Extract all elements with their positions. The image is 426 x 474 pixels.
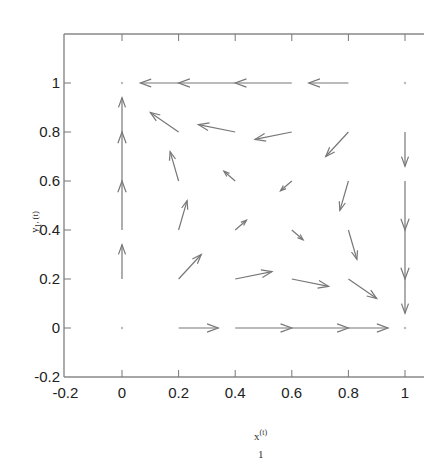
vector-arrow: [198, 123, 235, 132]
fixed-point: [121, 82, 123, 84]
ticks: -0.200.20.40.60.81-0.200.20.40.60.81: [34, 34, 409, 401]
fixed-point: [121, 327, 123, 329]
vector-arrow: [401, 230, 409, 279]
x-tick-label: 0: [118, 384, 126, 401]
vector-arrow: [235, 79, 292, 87]
vector-arrow: [118, 98, 125, 132]
vector-arrow: [292, 324, 349, 332]
x-axis-label: x(t): [254, 428, 267, 442]
y-tick-label: 0.2: [39, 270, 60, 287]
vector-arrow: [401, 132, 408, 166]
vector-arrow: [235, 270, 272, 279]
vector-arrow: [309, 79, 349, 87]
x-tick-label: 1: [401, 384, 409, 401]
x-tick-label: -0.2: [52, 384, 78, 401]
vector-arrow: [292, 279, 329, 288]
vector-arrow: [150, 112, 178, 132]
x-axis-label-sub: 1: [258, 448, 264, 460]
vector-arrow: [401, 181, 409, 230]
vector-arrow: [179, 79, 236, 87]
arrows: [118, 79, 409, 332]
vector-arrow: [169, 152, 178, 181]
fixed-points: [121, 82, 406, 329]
y-tick-label: -0.2: [34, 368, 60, 385]
vector-arrow: [401, 279, 408, 313]
vector-arrow: [179, 324, 219, 332]
x-tick-label: 0.8: [338, 384, 359, 401]
vector-arrow: [255, 132, 292, 141]
vector-arrow: [179, 201, 188, 230]
vector-arrow: [140, 79, 178, 87]
vector-arrow: [118, 245, 125, 279]
y-tick-label: 1: [52, 74, 60, 91]
y-tick-label: 0: [52, 319, 60, 336]
vector-arrow: [348, 324, 388, 332]
vector-arrow: [280, 181, 291, 191]
vector-arrow: [348, 279, 376, 299]
fixed-point: [404, 82, 406, 84]
x-tick-label: 0.2: [168, 384, 189, 401]
quiver-plot: -0.200.20.40.60.81-0.200.20.40.60.81 x(t…: [0, 0, 426, 474]
vector-arrow: [118, 181, 126, 230]
vector-arrow: [326, 132, 349, 157]
y-tick-label: 0.6: [39, 172, 60, 189]
vector-arrow: [348, 230, 357, 259]
vector-arrow: [292, 230, 303, 240]
vector-arrow: [224, 171, 235, 181]
fixed-point: [404, 327, 406, 329]
y-tick-label: 0.8: [39, 123, 60, 140]
x-tick-label: 0.4: [225, 384, 246, 401]
vector-arrow: [179, 255, 202, 280]
vector-arrow: [235, 220, 246, 230]
vector-arrow: [339, 181, 348, 210]
vector-arrow: [118, 132, 126, 181]
vector-arrow: [235, 324, 292, 332]
x-tick-label: 0.6: [281, 384, 302, 401]
